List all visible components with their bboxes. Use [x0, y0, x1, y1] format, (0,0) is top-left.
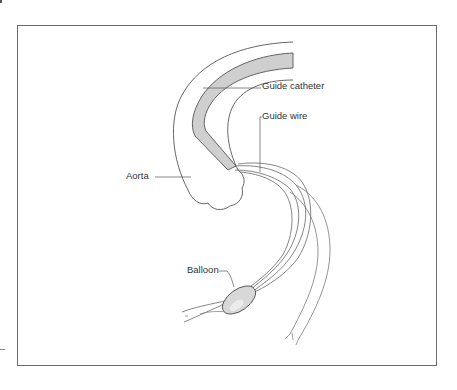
- aorta-inner-wall: [228, 80, 293, 170]
- aorta-root: [188, 170, 244, 210]
- angioplasty-illustration: [0, 0, 457, 390]
- label-aorta: Aorta: [126, 171, 149, 181]
- branch-vessel-tips: [285, 333, 298, 345]
- guide-wire-lower: [235, 170, 299, 290]
- label-guide-wire: Guide wire: [262, 111, 307, 121]
- leader-guide-wire: [260, 117, 262, 172]
- label-balloon: Balloon: [187, 265, 219, 275]
- label-guide-catheter: Guide catheter: [262, 81, 324, 91]
- branch-vessel-outer: [296, 185, 330, 340]
- leader-balloon: [219, 271, 234, 287]
- diagram-canvas: Guide catheter Guide wire Aorta Balloon: [0, 0, 457, 390]
